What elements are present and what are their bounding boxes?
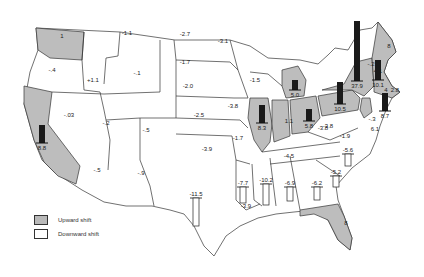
state-value-label: -7.7 (238, 180, 249, 186)
state-value-CO: -.5 (142, 127, 150, 133)
downward-bar (193, 198, 199, 226)
state-value-MT: -1.1 (122, 30, 133, 36)
state-value-label: 5.0 (291, 92, 300, 98)
upward-bar (259, 105, 265, 123)
state-value-label: -4.5 (284, 153, 295, 159)
legend-upward: Upward shift (34, 214, 99, 226)
state-value-WI: -1.5 (250, 77, 261, 83)
state-value-label: 1.1 (285, 118, 294, 124)
upward-bar (354, 21, 360, 81)
state-value-label: -1.9 (340, 133, 351, 139)
legend-downward: Downward shift (34, 228, 99, 240)
state-value-label: -6.2 (312, 180, 323, 186)
upward-swatch (34, 215, 48, 225)
state-value-NV: -.03 (64, 112, 75, 118)
state-value-label: -5.2 (331, 169, 342, 175)
state-value-KS: -2.5 (194, 112, 205, 118)
state-value-label: 10.1 (372, 82, 384, 88)
state-value-SD: -1.7 (180, 59, 191, 65)
state-value-label: 5.8 (305, 123, 314, 129)
state-value-OR: -.4 (48, 67, 56, 73)
state-value-MN: -3.1 (218, 38, 229, 44)
state-value-label: 8.3 (258, 125, 267, 131)
state-value-label: 8.8 (38, 145, 47, 151)
state-value-AZ: -.5 (93, 167, 101, 173)
state-value-label: -.5 (142, 127, 150, 133)
state-value-label: -.3 (368, 116, 376, 122)
downward-bar (314, 187, 320, 200)
state-value-DE: 6.1 (371, 126, 380, 132)
state-value-label: -.5 (93, 167, 101, 173)
state-value-label: -11.5 (189, 191, 203, 197)
state-value-WY: -.1 (133, 70, 141, 76)
downward-bar (240, 187, 246, 203)
state-value-RI: 2.8 (391, 87, 400, 93)
state-value-label: -3.1 (218, 38, 229, 44)
state-value-label: -1.1 (122, 30, 133, 36)
state-value-ID: +1.1 (87, 77, 100, 83)
state-value-label: -.03 (64, 112, 75, 118)
upward-bar (39, 125, 45, 143)
state-value-label: -1.7 (180, 59, 191, 65)
state-value-label: -1.7 (233, 135, 244, 141)
state-value-label: -5.6 (343, 147, 354, 153)
state-value-IN: 1.1 (285, 118, 294, 124)
state-value-label: -3.9 (241, 203, 252, 209)
upward-bar (306, 109, 312, 121)
state-value-NM: -.9 (137, 170, 145, 176)
state-value-FL: 8 (344, 220, 348, 226)
state-value-LA: -3.9 (241, 203, 252, 209)
state-value-MO: -1.7 (233, 135, 244, 141)
downward-bar (333, 176, 339, 187)
state-value-label: -2.0 (183, 83, 194, 89)
state-value-TN: -4.5 (284, 153, 295, 159)
state-value-label: -3.8 (228, 103, 239, 109)
state-FL (300, 204, 352, 250)
upward-bar (292, 80, 298, 90)
state-value-label: -.9 (137, 170, 145, 176)
state-value-label: 8.7 (381, 113, 390, 119)
state-value-VT: -.2 (367, 61, 375, 67)
state-value-VA: -1.9 (340, 133, 351, 139)
downward-bar (287, 187, 293, 201)
state-value-UT: -.2 (102, 120, 110, 126)
state-value-NE: -2.0 (183, 83, 194, 89)
state-value-label: 37.9 (351, 83, 363, 89)
state-value-label: -.4 (48, 67, 56, 73)
legend-downward-label: Downward shift (58, 231, 99, 237)
state-value-WV: -3.8 (323, 123, 334, 129)
state-value-label: -1.5 (250, 77, 261, 83)
state-value-label: -.2 (367, 61, 375, 67)
state-value-label: 10.5 (334, 106, 346, 112)
legend-upward-label: Upward shift (58, 217, 91, 223)
state-value-label: -.2 (102, 120, 110, 126)
state-value-label: -10.2 (259, 177, 273, 183)
state-value-IA: -3.8 (228, 103, 239, 109)
state-value-label: -6.9 (285, 180, 296, 186)
legend: Upward shift Downward shift (34, 214, 99, 242)
upward-bar (382, 93, 388, 111)
state-value-label: 6.1 (371, 126, 380, 132)
state-value-OK: -3.9 (202, 146, 213, 152)
state-value-MD: -.3 (368, 116, 376, 122)
state-value-label: 2.8 (391, 87, 400, 93)
downward-bar (345, 154, 351, 166)
downward-swatch (34, 229, 48, 239)
state-value-ND: -2.7 (180, 31, 191, 37)
state-value-label: -3.8 (323, 123, 334, 129)
upward-bar (375, 60, 381, 80)
state-value-label: -3.9 (202, 146, 213, 152)
state-value-label: -2.5 (194, 112, 205, 118)
state-value-label: 8 (344, 220, 348, 226)
state-value-label: -2.7 (180, 31, 191, 37)
upward-bar (337, 82, 343, 104)
state-value-label: +1.1 (87, 77, 100, 83)
state-value-label: -.1 (133, 70, 141, 76)
downward-bar (263, 184, 269, 205)
